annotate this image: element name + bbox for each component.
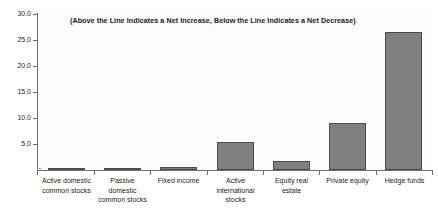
- x-axis-label-line: domestic: [94, 186, 151, 196]
- x-axis-tick: [432, 171, 433, 175]
- x-axis-line: [37, 170, 433, 171]
- x-axis-tick: [150, 171, 151, 175]
- bar-chart: (Above the Line Indicates a Net Increase…: [0, 0, 438, 212]
- y-axis-tick: [33, 144, 38, 145]
- bar-active-international-stocks: [217, 142, 254, 170]
- x-axis-label-equity-real-estate: Equity real estate: [263, 176, 320, 195]
- x-axis-label-line: Active: [207, 176, 264, 186]
- bar-private-equity: [329, 123, 366, 170]
- x-axis-label-line: estate: [263, 186, 320, 196]
- y-axis-tick-label: 5.0: [2, 140, 31, 147]
- y-axis-tick-label: 20.0: [2, 62, 31, 69]
- y-axis-tick-label: 15.0: [2, 88, 31, 95]
- x-axis-label-fixed-income: Fixed income: [150, 176, 207, 186]
- x-axis-label-line: international: [207, 186, 264, 196]
- x-axis-label-line: Equity real: [263, 176, 320, 186]
- x-axis-tick: [376, 171, 377, 175]
- y-axis-tick-label: 30.0: [2, 10, 31, 17]
- bar-hedge-funds: [385, 32, 422, 170]
- bar-equity-real-estate: [273, 161, 310, 170]
- x-axis-label-private-equity: Private equity: [319, 176, 376, 186]
- x-axis-label-line: common stocks: [94, 195, 151, 205]
- x-axis-label-line: common stocks: [38, 186, 95, 196]
- x-axis-label-hedge-funds: Hedge funds: [376, 176, 433, 186]
- x-axis-label-line: Active domestic: [38, 176, 95, 186]
- x-axis-label-line: Private equity: [319, 176, 376, 186]
- x-axis-label-line: Fixed income: [150, 176, 207, 186]
- y-axis-tick: [33, 92, 38, 93]
- x-axis-label-passive-domestic-common-stocks: Passive domestic common stocks: [94, 176, 151, 205]
- y-axis-tick: [33, 66, 38, 67]
- x-axis-label-active-international-stocks: Active international stocks: [207, 176, 264, 205]
- x-axis-label-line: Hedge funds: [376, 176, 433, 186]
- y-axis-tick-label: 10.0: [2, 114, 31, 121]
- x-axis-tick: [207, 171, 208, 175]
- y-axis-tick: [33, 14, 38, 15]
- x-axis-tick: [263, 171, 264, 175]
- y-axis-tick: [33, 118, 38, 119]
- x-axis-label-line: Passive: [94, 176, 151, 186]
- x-axis-tick: [94, 171, 95, 175]
- x-axis-tick: [37, 171, 38, 175]
- x-axis-label-active-domestic-common-stocks: Active domestic common stocks: [38, 176, 95, 195]
- y-axis-tick-label: 25.0: [2, 36, 31, 43]
- x-axis-label-line: stocks: [207, 195, 264, 205]
- x-axis-tick: [319, 171, 320, 175]
- chart-title: (Above the Line Indicates a Net Increase…: [70, 16, 356, 25]
- y-axis-tick: [33, 40, 38, 41]
